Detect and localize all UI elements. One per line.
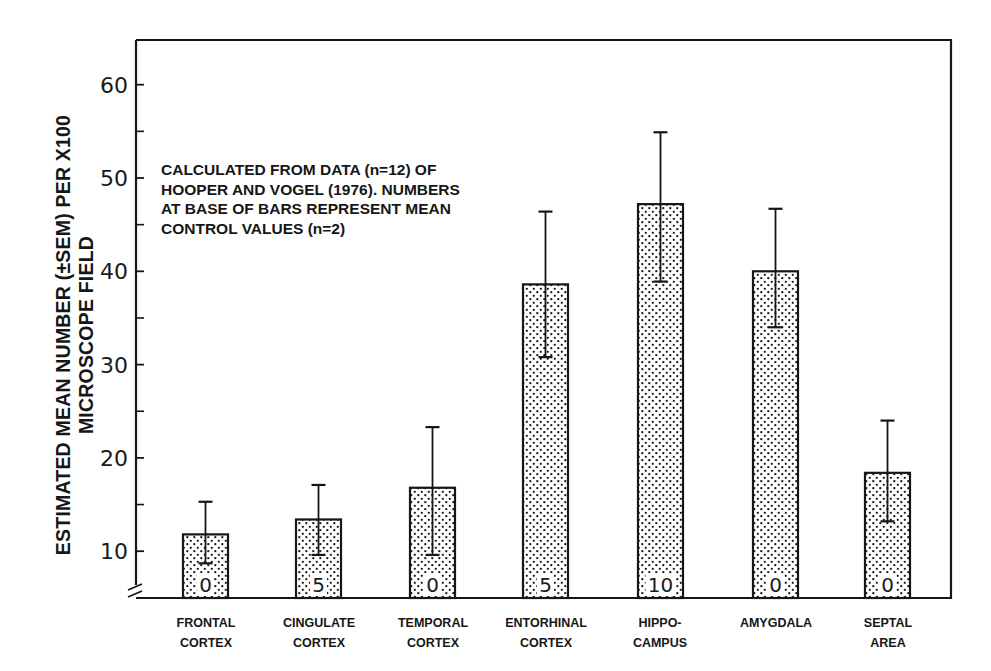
base-control-value: 10 xyxy=(648,573,673,597)
base-control-value: 5 xyxy=(539,573,552,597)
base-control-value: 0 xyxy=(199,573,212,597)
annotation-line: CALCULATED FROM DATA (n=12) OF xyxy=(161,160,460,180)
bar-group: 5 xyxy=(523,212,568,598)
base-control-value: 0 xyxy=(769,573,782,597)
bar-group: 10 xyxy=(638,132,683,598)
bar-group: 0 xyxy=(753,209,798,598)
annotation-line: AT BASE OF BARS REPRESENT MEAN xyxy=(161,199,460,219)
bar-group: 0 xyxy=(410,427,455,598)
x-category-label: CINGULATECORTEX xyxy=(283,616,355,650)
x-category-label: HIPPO-CAMPUS xyxy=(633,616,687,650)
base-control-value: 5 xyxy=(312,573,325,597)
y-tick-label: 30 xyxy=(100,353,128,378)
annotation-line: HOOPER AND VOGEL (1976). NUMBERS xyxy=(161,180,460,200)
x-category-label: ENTORHINALCORTEX xyxy=(505,616,587,650)
bar-group: 5 xyxy=(296,485,341,598)
x-axis-labels: FRONTALCORTEXCINGULATECORTEXTEMPORALCORT… xyxy=(177,616,913,650)
y-tick-label: 40 xyxy=(100,259,128,284)
bar-group: 0 xyxy=(183,502,228,598)
annotation-note: CALCULATED FROM DATA (n=12) OF HOOPER AN… xyxy=(161,160,460,238)
y-tick-label: 10 xyxy=(100,539,128,564)
x-category-label: FRONTALCORTEX xyxy=(177,616,236,650)
x-category-label: TEMPORALCORTEX xyxy=(398,616,469,650)
y-tick-label: 20 xyxy=(100,446,128,471)
base-control-value: 0 xyxy=(881,573,894,597)
x-category-label: AMYGDALA xyxy=(740,616,812,630)
axis-break-icon xyxy=(128,584,142,597)
bar-group: 0 xyxy=(865,421,910,598)
y-tick-label: 50 xyxy=(100,166,128,191)
y-tick-label: 60 xyxy=(100,73,128,98)
bar-chart: 102030405060 05051000 FRONTALCORTEXCINGU… xyxy=(0,0,991,671)
y-axis: 102030405060 xyxy=(100,40,144,597)
x-category-label: SEPTALAREA xyxy=(864,616,913,650)
base-control-value: 0 xyxy=(426,573,439,597)
annotation-line: CONTROL VALUES (n=2) xyxy=(161,219,460,239)
